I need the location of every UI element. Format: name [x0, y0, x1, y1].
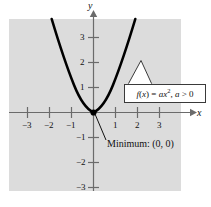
xtick-label-3: 3: [157, 121, 162, 130]
ytick-label-3: 3: [80, 33, 85, 42]
function-variable: x: [142, 89, 146, 99]
figure-container: −3 −2 −1 1 2 3 3 2 1 −1 −2 −3 x y f(x) =…: [0, 0, 211, 207]
xtick-label-1: 1: [113, 121, 118, 130]
condition-a: a: [175, 89, 180, 99]
ytick-label-1: 1: [80, 83, 85, 92]
function-callout-label: f(x) = ax2, a > 0: [125, 87, 205, 100]
xtick-label--3: −3: [22, 121, 32, 130]
xtick-label-2: 2: [135, 121, 140, 130]
xtick-label--1: −1: [66, 121, 76, 130]
ytick-label-2: 2: [80, 58, 85, 67]
ytick-label--2: −2: [76, 158, 86, 167]
y-axis-label: y: [88, 1, 92, 11]
x-axis: [9, 109, 197, 116]
minimum-leader-line: [95, 114, 106, 140]
x-axis-label: x: [197, 108, 201, 118]
minimum-annotation: Minimum: (0, 0): [107, 139, 174, 149]
callout-pointer: [128, 61, 152, 85]
exponent-2: 2: [167, 87, 170, 94]
ytick-label--1: −1: [76, 133, 86, 142]
xtick-label--2: −2: [44, 121, 54, 130]
graph-canvas: [0, 0, 211, 207]
function-name: f: [137, 89, 140, 99]
ytick-label--3: −3: [76, 183, 86, 192]
